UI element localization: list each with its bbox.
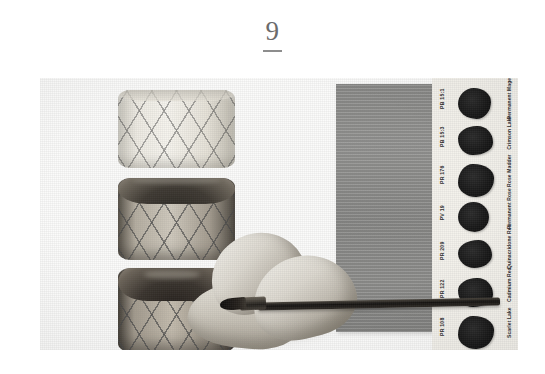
page-number-rule	[263, 50, 282, 52]
ring-bottom-rim-highlight	[144, 270, 200, 279]
ring-top-body	[118, 90, 235, 168]
ring-top-lattice-pattern	[118, 90, 235, 168]
swatch-paint-blob	[458, 88, 491, 119]
hand-with-paintbrush	[200, 228, 460, 350]
ring-top-rim	[118, 90, 235, 101]
ring-middle-rim	[118, 178, 235, 204]
swatch-color-name: Scarlet Lake	[507, 297, 512, 349]
swatch-paint-blob	[458, 164, 494, 197]
swatch-paint-blob	[458, 202, 489, 232]
swatch-paint-blob	[458, 126, 493, 155]
ring-top	[118, 90, 235, 168]
swatch-paint-blob	[458, 240, 492, 268]
photograph: PB 15:1Permanent MagentaPB 15:3Crimson L…	[40, 78, 518, 350]
ring-middle-rim-highlight	[132, 178, 221, 184]
page-number-block: 9	[0, 18, 545, 52]
swatch-paint-blob	[458, 316, 494, 349]
paintbrush-tip	[220, 297, 247, 311]
page-number: 9	[0, 18, 545, 45]
